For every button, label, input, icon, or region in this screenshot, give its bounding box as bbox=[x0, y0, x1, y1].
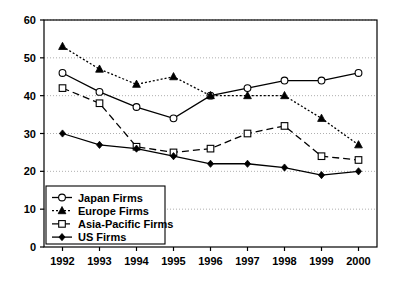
data-point-marker bbox=[355, 141, 363, 148]
x-axis-tick-label: 1993 bbox=[87, 255, 111, 267]
data-point-marker bbox=[281, 77, 288, 84]
data-point-marker bbox=[281, 164, 287, 171]
data-point-marker bbox=[59, 70, 66, 77]
data-point-marker bbox=[318, 172, 324, 179]
data-point-marker bbox=[59, 42, 67, 49]
legend-item-label: US Firms bbox=[78, 231, 126, 243]
x-axis-tick-label: 2000 bbox=[346, 255, 370, 267]
legend-item-label: Asia-Pacific Firms bbox=[78, 218, 173, 230]
x-axis-tick-label: 1999 bbox=[309, 255, 333, 267]
data-point-marker bbox=[318, 114, 326, 121]
x-axis-tick-label: 1996 bbox=[198, 255, 222, 267]
chart-canvas: 0102030405060 19921993199419951996199719… bbox=[0, 0, 396, 285]
y-axis-tick-label: 20 bbox=[24, 165, 36, 177]
x-axis-tick-label: 1994 bbox=[124, 255, 149, 267]
y-axis-tick-label: 0 bbox=[30, 241, 36, 253]
x-axis-tick-label: 1997 bbox=[235, 255, 259, 267]
x-axis-tick-label: 1995 bbox=[161, 255, 185, 267]
data-point-marker bbox=[318, 77, 325, 84]
x-axis-tick-label: 1992 bbox=[50, 255, 74, 267]
line-chart: 0102030405060 19921993199419951996199719… bbox=[0, 0, 396, 285]
legend-item-label: Japan Firms bbox=[78, 192, 143, 204]
data-point-marker bbox=[207, 145, 214, 152]
x-axis: 199219931994199519961997199819992000 bbox=[50, 247, 370, 267]
data-point-marker bbox=[244, 85, 251, 92]
data-point-marker bbox=[59, 221, 66, 228]
chart-legend: Japan FirmsEurope FirmsAsia-Pacific Firm… bbox=[46, 186, 173, 244]
data-point-marker bbox=[244, 160, 250, 167]
data-point-marker bbox=[244, 130, 251, 137]
y-axis-tick-label: 40 bbox=[24, 90, 36, 102]
y-axis-tick-label: 10 bbox=[24, 203, 36, 215]
legend-item-label: Europe Firms bbox=[78, 205, 149, 217]
data-point-marker bbox=[170, 73, 178, 80]
data-point-marker bbox=[355, 168, 361, 175]
data-point-marker bbox=[318, 153, 325, 160]
y-axis-tick-label: 30 bbox=[24, 128, 36, 140]
data-point-marker bbox=[59, 194, 66, 201]
series-line bbox=[63, 134, 359, 176]
data-point-marker bbox=[96, 100, 103, 107]
data-point-marker bbox=[96, 88, 103, 95]
data-point-marker bbox=[59, 85, 66, 92]
y-axis: 0102030405060 bbox=[24, 14, 44, 253]
gridlines bbox=[44, 20, 377, 209]
data-point-marker bbox=[96, 65, 104, 72]
y-axis-tick-label: 50 bbox=[24, 52, 36, 64]
data-point-marker bbox=[281, 123, 288, 130]
data-point-marker bbox=[96, 141, 102, 148]
x-axis-tick-label: 1998 bbox=[272, 255, 296, 267]
data-point-marker bbox=[355, 157, 362, 164]
y-axis-tick-label: 60 bbox=[24, 14, 36, 26]
data-point-marker bbox=[170, 115, 177, 122]
data-point-marker bbox=[207, 160, 213, 167]
data-point-marker bbox=[133, 104, 140, 111]
series-layer bbox=[59, 42, 363, 178]
data-point-marker bbox=[355, 70, 362, 77]
data-point-marker bbox=[59, 130, 65, 137]
